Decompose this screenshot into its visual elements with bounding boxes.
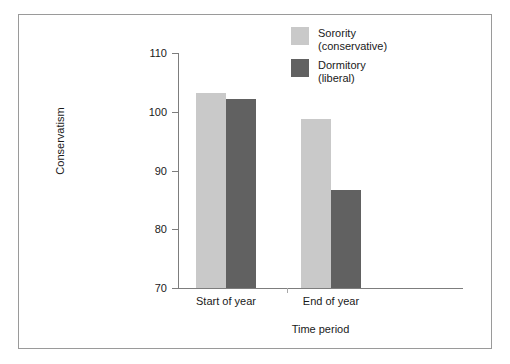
y-tick-mark-110: [172, 53, 178, 54]
bar-chart-plot-area: 110 100 90 80 70 Start of year End of ye…: [19, 15, 493, 350]
x-axis-title: Time period: [178, 323, 463, 335]
y-tick-mark-80: [172, 229, 178, 230]
x-tick-mark-group-divider: [287, 288, 288, 293]
y-tick-label-90: 90: [127, 166, 167, 177]
legend-label-dormitory-name: Dormitory: [318, 59, 366, 71]
bar-dormitory-end-of-year: [331, 190, 361, 288]
legend-label-sorority-name: Sorority: [318, 27, 356, 39]
y-tick-label-100: 100: [127, 107, 167, 118]
legend-item-sorority: Sorority (conservative): [291, 27, 387, 52]
legend-item-dormitory: Dormitory (liberal): [291, 59, 387, 84]
legend-label-sorority: Sorority (conservative): [318, 27, 387, 52]
legend-swatch-dormitory-icon: [291, 59, 309, 77]
y-tick-label-70: 70: [127, 283, 167, 294]
x-axis-line: [178, 288, 463, 289]
y-tick-label-80: 80: [127, 224, 167, 235]
chart-legend: Sorority (conservative) Dormitory (liber…: [291, 27, 387, 91]
bar-sorority-end-of-year: [301, 119, 331, 288]
bar-sorority-start-of-year: [196, 93, 226, 288]
legend-label-sorority-qualifier: (conservative): [318, 40, 387, 53]
y-tick-mark-90: [172, 171, 178, 172]
figure-frame: 110 100 90 80 70 Start of year End of ye…: [18, 14, 492, 349]
y-axis-title: Conservatism: [54, 81, 66, 201]
bar-dormitory-start-of-year: [226, 99, 256, 288]
y-tick-mark-70: [172, 288, 178, 289]
y-tick-mark-100: [172, 112, 178, 113]
legend-label-dormitory: Dormitory (liberal): [318, 59, 366, 84]
y-tick-label-110: 110: [127, 48, 167, 59]
legend-label-dormitory-qualifier: (liberal): [318, 72, 366, 85]
y-axis-line: [178, 53, 179, 288]
x-tick-label-end-of-year: End of year: [271, 295, 391, 307]
legend-swatch-sorority-icon: [291, 27, 309, 45]
x-tick-label-start-of-year: Start of year: [166, 295, 286, 307]
